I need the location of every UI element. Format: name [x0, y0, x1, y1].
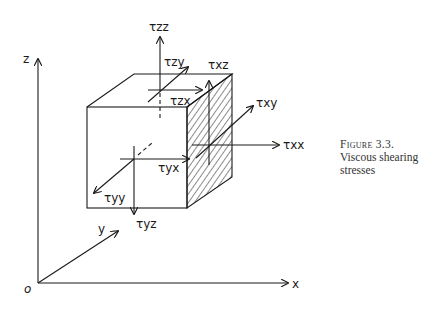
tau-yy-arrow [94, 159, 134, 193]
tau-yy-label: τyy [104, 191, 125, 205]
figure-caption: Figure 3.3. Viscous shearing stresses [340, 138, 440, 177]
x-axis-label: x [292, 277, 299, 291]
tau-xy-label: τxy [256, 96, 277, 110]
tau-zz-label: τzz [149, 20, 169, 34]
tau-xx-label: τxx [283, 138, 304, 152]
cube-front-face [87, 107, 187, 208]
y-axis-label: y [98, 222, 105, 236]
caption-line-2: stresses [340, 164, 440, 177]
y-axis [38, 231, 118, 283]
origin-label: o [24, 282, 31, 296]
tau-xz-label: τxz [208, 58, 229, 72]
tau-yz-label: τyz [136, 217, 157, 231]
caption-line-1: Viscous shearing [340, 151, 440, 164]
z-axis-label: z [23, 52, 29, 66]
tau-yy-dashed [138, 143, 152, 155]
tau-yx-label: τyx [158, 161, 179, 175]
tau-zx-label: τzx [170, 94, 191, 108]
figure-number: Figure 3.3. [340, 138, 440, 151]
tau-zy-label: τzy [164, 55, 185, 69]
